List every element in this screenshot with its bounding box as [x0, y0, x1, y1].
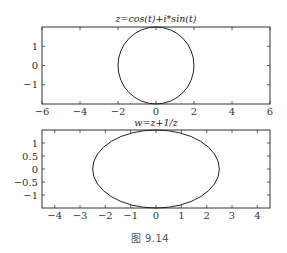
x-tick-label: 2 [191, 106, 197, 117]
x-tick-label: 4 [229, 106, 235, 117]
y-tick-label: −1 [23, 190, 38, 201]
x-tick-label: −4 [73, 106, 88, 117]
subplot-title: z=cos(t)+i*sin(t) [114, 13, 196, 24]
axes-frame [42, 130, 270, 208]
x-tick-label: −1 [123, 210, 138, 221]
y-tick-label: −1 [23, 79, 38, 90]
x-tick-label: −4 [47, 210, 62, 221]
x-tick-label: 2 [203, 210, 209, 221]
y-tick-label: 0 [32, 60, 38, 71]
x-tick-label: 4 [254, 210, 260, 221]
curve-circle [118, 27, 194, 104]
x-tick-label: 3 [229, 210, 235, 221]
chart-figure: −6−4−20246−101z=cos(t)+i*sin(t)−4−3−2−10… [0, 0, 287, 253]
y-tick-label: 0 [32, 164, 38, 175]
x-tick-label: 0 [153, 210, 159, 221]
x-tick-label: −3 [73, 210, 88, 221]
axes-frame [42, 27, 270, 104]
figure-caption: 图 9.14 [0, 230, 287, 245]
y-tick-label: 0.5 [22, 151, 38, 162]
x-tick-label: 6 [267, 106, 273, 117]
x-tick-label: −2 [111, 106, 126, 117]
x-tick-label: 1 [178, 210, 184, 221]
x-tick-label: −2 [98, 210, 113, 221]
subplot-title: w=z+1/z [134, 117, 178, 128]
subplot-2: −4−3−2−101234−1−0.500.51w=z+1/z [14, 117, 270, 221]
y-tick-label: −0.5 [14, 177, 38, 188]
subplot-1: −6−4−20246−101z=cos(t)+i*sin(t) [23, 13, 273, 117]
x-tick-label: −6 [35, 106, 50, 117]
y-tick-label: 1 [32, 41, 38, 52]
y-tick-label: 1 [32, 138, 38, 149]
curve-ellipse [93, 130, 220, 208]
x-tick-label: 0 [153, 106, 159, 117]
